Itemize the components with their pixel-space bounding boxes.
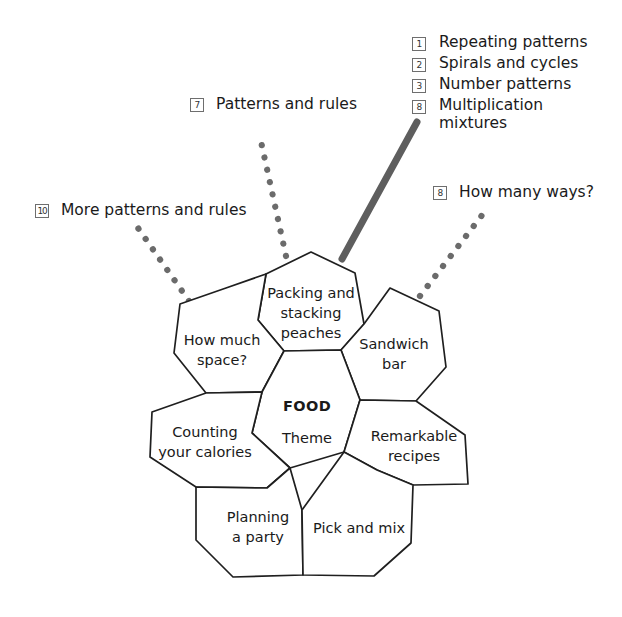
cell-remarkable-recipes-line-1: Remarkable (371, 428, 458, 444)
connector-more-patterns-and-rules (138, 228, 189, 301)
cell-food-heading: FOOD (283, 398, 331, 414)
annotation-label-multiplication-mixtures: Multiplication mixtures (439, 96, 543, 132)
annotation-patterns-and-rules[interactable]: 7 Patterns and rules (190, 94, 357, 114)
annotation-label-how-many-ways: How many ways? (459, 182, 594, 202)
cell-counting-calories-line-1: Counting (172, 424, 237, 440)
badge-number-1: 1 (412, 37, 426, 51)
annotation-label-repeating-patterns: Repeating patterns (439, 33, 587, 51)
cell-packing-line-2: stacking (281, 305, 342, 321)
cell-pick-and-mix-line-1: Pick and mix (313, 520, 405, 536)
annotation-row-spirals-and-cycles[interactable]: 2 Spirals and cycles (412, 54, 587, 72)
badge-number-8-multiplication: 8 (412, 100, 426, 114)
cell-how-much-space-line-1: How much (184, 332, 261, 348)
cell-sandwich-bar-line-1: Sandwich (359, 336, 429, 352)
cell-packing-line-1: Packing and (267, 285, 355, 301)
annotation-more-patterns-and-rules[interactable]: 10 More patterns and rules (35, 200, 247, 220)
badge-number-10: 10 (35, 204, 49, 218)
connector-how-many-ways (420, 210, 486, 296)
annotation-label-more-patterns-and-rules: More patterns and rules (61, 200, 247, 220)
badge-number-7: 7 (190, 98, 204, 112)
connector-multiplication-group (342, 122, 417, 259)
cell-remarkable-recipes-line-2: recipes (388, 448, 440, 464)
annotation-row-number-patterns[interactable]: 3 Number patterns (412, 75, 587, 93)
cell-packing-line-3: peaches (281, 325, 342, 341)
annotation-label-spirals-and-cycles: Spirals and cycles (439, 54, 578, 72)
annotation-label-patterns-and-rules: Patterns and rules (216, 94, 357, 114)
cell-packing-and-stacking-peaches[interactable]: Packing and stacking peaches (258, 252, 364, 351)
cell-food-subheading: Theme (281, 430, 332, 446)
cell-planning-a-party-line-2: a party (232, 529, 284, 545)
annotation-how-many-ways[interactable]: 8 How many ways? (433, 182, 594, 202)
cell-how-much-space-line-2: space? (197, 352, 247, 368)
cell-counting-calories-line-2: your calories (158, 444, 251, 460)
badge-number-3: 3 (412, 79, 426, 93)
cell-sandwich-bar-line-2: bar (382, 356, 406, 372)
annotation-multiplication-group: 1 Repeating patterns 2 Spirals and cycle… (412, 33, 587, 132)
badge-number-8-how-many-ways: 8 (433, 186, 447, 200)
annotation-row-repeating-patterns[interactable]: 1 Repeating patterns (412, 33, 587, 51)
connector-patterns-and-rules (260, 137, 286, 256)
annotation-label-number-patterns: Number patterns (439, 75, 571, 93)
badge-number-2: 2 (412, 58, 426, 72)
cell-planning-a-party-line-1: Planning (227, 509, 289, 525)
annotation-row-multiplication-mixtures[interactable]: 8 Multiplication mixtures (412, 96, 587, 132)
